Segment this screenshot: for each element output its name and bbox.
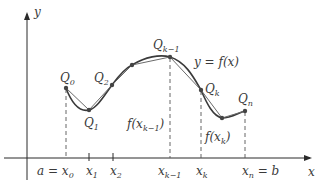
label-qn: Qn: [238, 92, 253, 108]
tick-label-xk-1: xk−1: [158, 164, 181, 180]
tick-label-x0: a = x0: [37, 164, 74, 180]
label-qk-1: Qk−1: [153, 38, 179, 54]
label-qk: Qk: [205, 82, 220, 98]
label-f-xk: f(xk): [204, 130, 231, 146]
x-ticks: [89, 153, 113, 161]
arc-length-diagram: y x Q0 Q1 Q2 Qk−1 Qk Qn y = f(x) f(xk−1)…: [0, 0, 320, 184]
tick-label-xn: xn = b: [242, 164, 279, 180]
curve-label: y = f(x): [193, 55, 239, 69]
tick-label-xk: xk: [196, 164, 208, 180]
label-q1: Q1: [84, 116, 99, 132]
label-f-xk-1: f(xk−1): [126, 117, 165, 133]
label-q2: Q2: [94, 71, 109, 87]
x-axis-label: x: [308, 165, 315, 179]
tick-label-x2: x2: [110, 164, 122, 180]
label-q0: Q0: [60, 71, 75, 87]
tick-label-x1: x1: [86, 164, 98, 180]
y-axis-label: y: [33, 5, 41, 19]
